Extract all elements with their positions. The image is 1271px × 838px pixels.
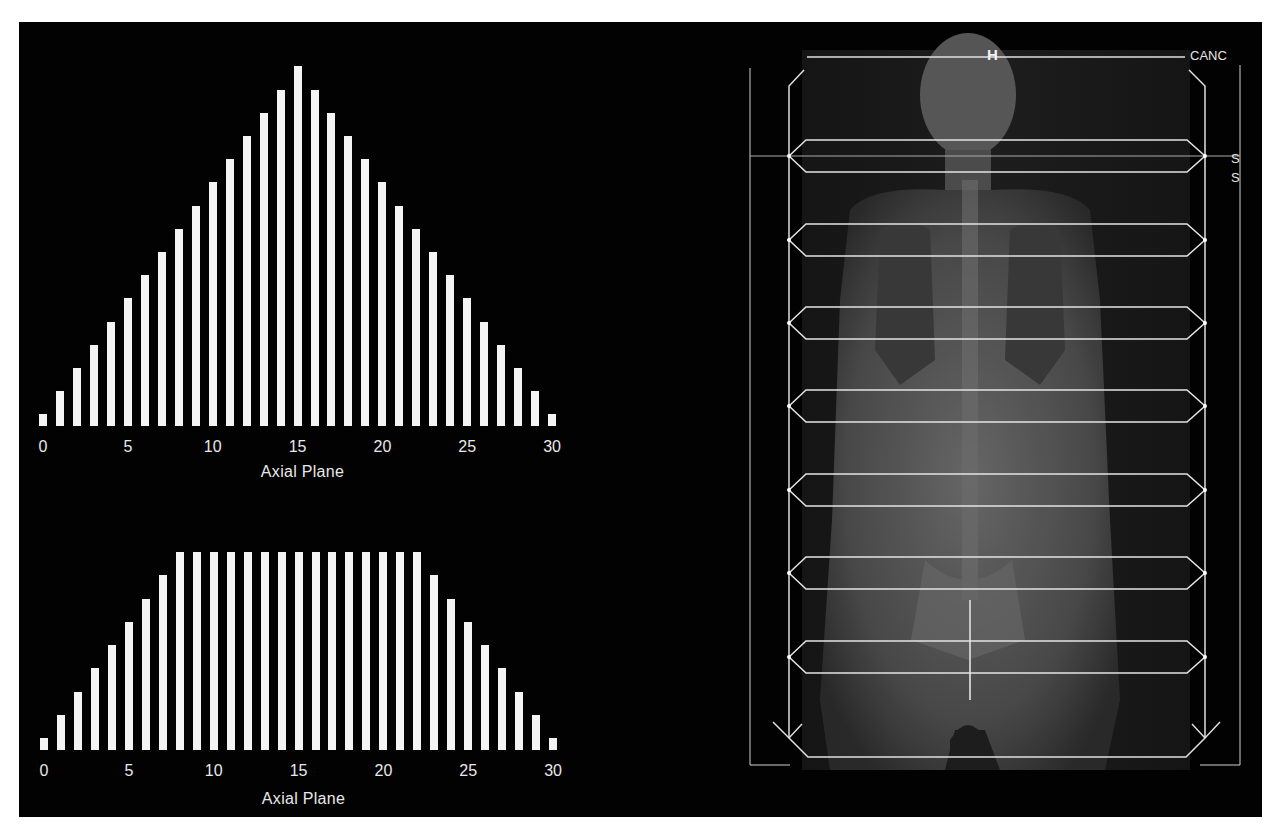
bar-plane-8 [176, 552, 184, 750]
bar-plane-27 [498, 668, 506, 750]
bar-plane-2 [74, 692, 82, 750]
bar-plane-21 [396, 552, 404, 750]
bar-plane-10 [210, 552, 218, 750]
bar-plane-18 [345, 552, 353, 750]
bar-plane-23 [430, 575, 438, 750]
bar-plane-25 [464, 622, 472, 750]
bar-plane-29 [532, 715, 540, 750]
x-tick-label: 10 [205, 762, 223, 780]
bar-plane-17 [328, 552, 336, 750]
bar-plane-0 [40, 738, 48, 750]
bar-plane-4 [108, 645, 116, 750]
bar-plane-13 [261, 552, 269, 750]
bar-plane-3 [91, 668, 99, 750]
bar-plane-30 [549, 738, 557, 750]
x-tick-label: 15 [290, 762, 308, 780]
bar-plane-28 [515, 692, 523, 750]
bar-plane-15 [295, 552, 303, 750]
bar-plane-14 [278, 552, 286, 750]
x-tick-label: 25 [459, 762, 477, 780]
bar-plane-24 [447, 599, 455, 750]
x-axis-title: Axial Plane [262, 790, 345, 808]
x-tick-label: 30 [544, 762, 562, 780]
bar-plane-20 [379, 552, 387, 750]
x-tick-label: 20 [374, 762, 392, 780]
bar-plane-16 [312, 552, 320, 750]
bar-plane-6 [142, 599, 150, 750]
bar-plane-12 [244, 552, 252, 750]
bar-plane-26 [481, 645, 489, 750]
bar-plane-22 [413, 552, 421, 750]
bar-plane-5 [125, 622, 133, 750]
bar-plane-11 [227, 552, 235, 750]
bar-plane-7 [159, 575, 167, 750]
bar-plane-1 [57, 715, 65, 750]
x-tick-label: 0 [40, 762, 49, 780]
bar-plane-9 [193, 552, 201, 750]
x-tick-label: 5 [124, 762, 133, 780]
bar-plane-19 [362, 552, 370, 750]
axial-sensitivity-chart-trapezoidal: 051015202530Axial Plane [0, 0, 600, 838]
